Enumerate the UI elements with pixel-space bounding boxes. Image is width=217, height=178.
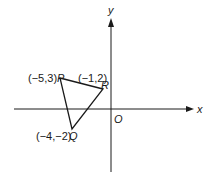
y-axis-label: y — [108, 5, 114, 16]
point-r-label: R — [101, 80, 109, 91]
point-p-label: P — [57, 73, 64, 84]
point-q-coords: (−4,−2) — [36, 131, 71, 142]
point-p-coords: (−5,3) — [28, 73, 57, 84]
y-axis-arrow-icon — [108, 18, 114, 27]
x-axis-label: x — [197, 104, 203, 115]
origin-label: O — [114, 114, 123, 125]
triangle-pqr — [60, 78, 103, 129]
point-q-label: Q — [69, 131, 78, 142]
x-axis-arrow-icon — [186, 106, 194, 112]
